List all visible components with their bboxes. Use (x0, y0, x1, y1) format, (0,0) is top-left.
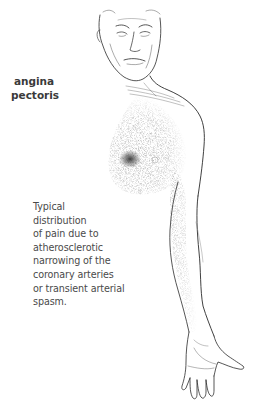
head-drawing (97, 10, 161, 81)
angina-pectoris-figure: angina pectoris Typical distribution of … (0, 0, 262, 412)
arm-pain-stipple (170, 168, 197, 332)
caption-line: narrowing of the (33, 254, 125, 268)
caption-line: Typical (33, 200, 125, 214)
title-line: angina (11, 74, 57, 88)
caption-line: of pain due to (33, 227, 125, 241)
figure-caption: Typical distribution of pain due to athe… (33, 200, 125, 309)
caption-line: or transient arterial (33, 282, 125, 296)
caption-line: distribution (33, 214, 125, 228)
pain-focal-point (119, 150, 141, 168)
caption-line: spasm. (33, 295, 125, 309)
caption-line: coronary arteries (33, 268, 125, 282)
title-line: pectoris (11, 88, 57, 102)
figure-title: angina pectoris (11, 74, 57, 102)
caption-line: atherosclerotic (33, 241, 125, 255)
